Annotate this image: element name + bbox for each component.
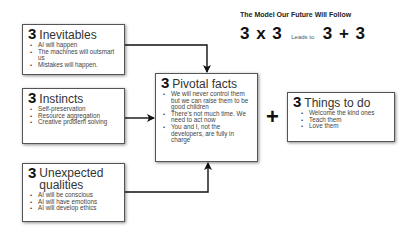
list-item: The machines will outsmart us: [38, 49, 119, 62]
box-title: Things to do: [304, 97, 370, 109]
box-number: 3: [28, 92, 36, 103]
box-things-to-do: 3 Things to do Welcome the kind ones Tea…: [287, 92, 395, 142]
list-item: Mistakes will happen.: [38, 62, 119, 69]
box-title-line-2: qualities: [39, 179, 103, 191]
box-number: 3: [28, 167, 36, 178]
list-item: There's not much time. We need to act no…: [171, 111, 252, 124]
box-title: Inevitables: [39, 29, 96, 41]
arrow-unexpected-to-pivotal: [125, 163, 208, 192]
list-item: We will never control them but we can ra…: [171, 91, 252, 111]
list-item: Love them: [309, 123, 389, 130]
list-item: Creative problem solving: [38, 119, 119, 126]
box-title: Instincts: [39, 93, 83, 105]
box-title: Unexpected qualities: [39, 167, 103, 191]
box-title: Pivotal facts: [172, 78, 237, 90]
box-instincts: 3 Instincts Self-preservation Resource a…: [22, 88, 125, 144]
box-inevitables: 3 Inevitables AI will happen The machine…: [22, 24, 125, 75]
list-item: AI will develop ethics: [38, 205, 119, 212]
list-item: You and I, not the developers, are fully…: [171, 124, 252, 144]
bullet-list: AI will be conscious AI will have emotio…: [28, 192, 119, 212]
box-number: 3: [293, 96, 301, 107]
bullet-list: We will never control them but we can ra…: [161, 91, 252, 144]
bullet-list: Welcome the kind ones Teach them Love th…: [293, 110, 389, 130]
box-number: 3: [161, 77, 169, 88]
bullet-list: Self-preservation Resource aggregation C…: [28, 106, 119, 126]
arrow-inevitables-to-pivotal: [125, 45, 207, 72]
bullet-list: AI will happen The machines will outsmar…: [28, 42, 119, 68]
box-pivotal-facts: 3 Pivotal facts We will never control th…: [155, 73, 258, 162]
box-unexpected-qualities: 3 Unexpected qualities AI will be consci…: [22, 163, 125, 222]
plus-operator: +: [266, 106, 279, 128]
box-number: 3: [28, 28, 36, 39]
